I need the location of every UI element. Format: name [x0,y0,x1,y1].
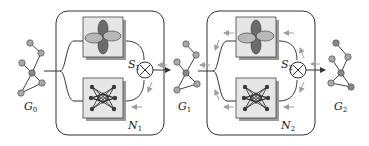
graph-g0-label: G0 [24,100,37,114]
network-n2-label: N2 [280,119,295,133]
block-1: S1 N1 [44,11,170,135]
pipeline-diagram: G0 S1 N1 [0,0,369,146]
block-2: S2 N2 [198,11,325,135]
filter-s2-label: S2 [281,58,293,72]
filter-s1-label: S1 [128,58,140,72]
network-n1-label: N1 [127,119,142,133]
graph-g0-icon [18,40,45,96]
graph-g1-label: G1 [178,100,191,114]
graph-g2-label: G2 [334,100,347,114]
graph-g1-icon [174,41,200,93]
graph-g2-icon [328,40,354,90]
